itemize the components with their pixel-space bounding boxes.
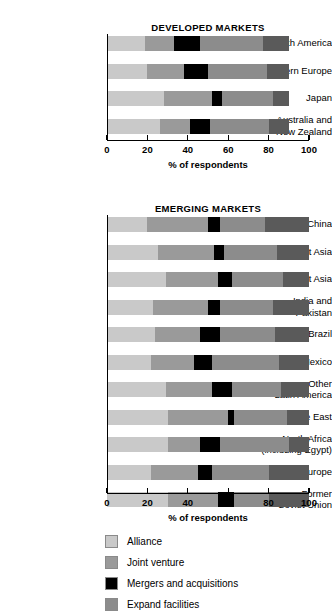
bar-segment-alliance xyxy=(107,36,145,51)
bar-segment-other xyxy=(269,119,289,134)
bar-segment-expand-facilities xyxy=(222,91,273,106)
legend-label: Expand facilities xyxy=(127,599,199,610)
bar-segment-alliance xyxy=(107,355,151,370)
bar-segment-joint-venture xyxy=(147,217,208,232)
stacked-bar xyxy=(107,36,309,51)
x-axis-title: % of respondents xyxy=(107,512,309,523)
bar-segment-alliance xyxy=(107,245,158,260)
legend-swatch-icon xyxy=(105,598,118,611)
stacked-bar xyxy=(107,119,309,134)
bar-segment-mergers-and-acquisitions xyxy=(214,245,224,260)
stacked-bar xyxy=(107,465,309,480)
bar-segment-expand-facilities xyxy=(212,355,279,370)
chart-title: DEVELOPED MARKETS xyxy=(107,22,309,33)
stacked-bar xyxy=(107,64,309,79)
bar-segment-alliance xyxy=(107,327,155,342)
bar-segment-other xyxy=(279,355,309,370)
x-axis-title: % of respondents xyxy=(107,159,309,170)
bar-segment-expand-facilities xyxy=(220,300,273,315)
legend-swatch-icon xyxy=(105,535,118,548)
bar-segment-expand-facilities xyxy=(200,36,263,51)
stacked-bar xyxy=(107,355,309,370)
x-axis-tick xyxy=(268,488,269,493)
legend-item: Expand facilities xyxy=(105,596,199,612)
x-axis-tick-label: 0 xyxy=(92,144,122,155)
bar-segment-other xyxy=(265,217,309,232)
bar-segment-mergers-and-acquisitions xyxy=(208,217,220,232)
stacked-bar xyxy=(107,327,309,342)
bar-segment-expand-facilities xyxy=(220,327,275,342)
bar-segment-mergers-and-acquisitions xyxy=(200,327,220,342)
x-axis-tick-label: 100 xyxy=(294,497,324,508)
bar-segment-mergers-and-acquisitions xyxy=(190,119,210,134)
legend-item: Alliance xyxy=(105,533,162,549)
bar-segment-other xyxy=(283,272,309,287)
legend-label: Mergers and acquisitions xyxy=(127,578,238,589)
bar-segment-expand-facilities xyxy=(232,272,283,287)
bar-segment-joint-venture xyxy=(168,410,229,425)
bar-segment-joint-venture xyxy=(145,36,173,51)
y-axis-line xyxy=(107,215,108,494)
bar-segment-other xyxy=(269,465,309,480)
bar-segment-alliance xyxy=(107,382,166,397)
bar-segment-joint-venture xyxy=(153,300,208,315)
bar-segment-joint-venture xyxy=(151,355,193,370)
bar-segment-expand-facilities xyxy=(220,437,289,452)
legend-label: Alliance xyxy=(127,536,162,547)
x-axis-tick-label: 100 xyxy=(294,144,324,155)
bar-segment-expand-facilities xyxy=(208,64,267,79)
x-axis-tick xyxy=(228,135,229,140)
bar-segment-expand-facilities xyxy=(210,119,269,134)
x-axis-tick-label: 60 xyxy=(213,144,243,155)
x-axis-tick-label: 20 xyxy=(132,497,162,508)
bar-segment-mergers-and-acquisitions xyxy=(208,300,220,315)
bar-segment-joint-venture xyxy=(166,272,219,287)
bar-segment-alliance xyxy=(107,64,147,79)
bar-segment-alliance xyxy=(107,217,147,232)
x-axis-tick xyxy=(106,135,107,140)
stacked-bar xyxy=(107,245,309,260)
x-axis-tick xyxy=(308,135,309,140)
bar-segment-joint-venture xyxy=(147,64,183,79)
bar-segment-joint-venture xyxy=(164,91,212,106)
bar-segment-mergers-and-acquisitions xyxy=(212,91,222,106)
chart-title: EMERGING MARKETS xyxy=(107,203,309,214)
bar-segment-other xyxy=(275,327,309,342)
x-axis-tick xyxy=(187,488,188,493)
bar-segment-joint-venture xyxy=(166,382,212,397)
bar-segment-expand-facilities xyxy=(234,410,287,425)
stacked-bar xyxy=(107,437,309,452)
bar-segment-other xyxy=(273,300,309,315)
bar-segment-alliance xyxy=(107,410,168,425)
bar-segment-alliance xyxy=(107,272,166,287)
legend-label: Joint venture xyxy=(127,557,184,568)
y-axis-line xyxy=(107,34,108,141)
bar-segment-alliance xyxy=(107,437,168,452)
bar-segment-expand-facilities xyxy=(224,245,277,260)
stacked-bar xyxy=(107,217,309,232)
bar-segment-other xyxy=(289,437,309,452)
bar-segment-mergers-and-acquisitions xyxy=(184,64,208,79)
stacked-bar xyxy=(107,382,309,397)
x-axis-line xyxy=(107,140,309,141)
bar-segment-mergers-and-acquisitions xyxy=(212,382,232,397)
bar-segment-other xyxy=(281,382,309,397)
x-axis-tick-label: 40 xyxy=(173,144,203,155)
bar-segment-mergers-and-acquisitions xyxy=(194,355,212,370)
x-axis-tick xyxy=(308,488,309,493)
stacked-bar xyxy=(107,272,309,287)
x-axis-line xyxy=(107,493,309,494)
bar-segment-other xyxy=(263,36,289,51)
x-axis-tick-label: 80 xyxy=(254,144,284,155)
x-axis-tick-label: 20 xyxy=(132,144,162,155)
x-axis-tick xyxy=(187,135,188,140)
x-axis-tick-label: 40 xyxy=(173,497,203,508)
bar-segment-alliance xyxy=(107,465,151,480)
bar-segment-joint-venture xyxy=(168,437,200,452)
stacked-bar xyxy=(107,410,309,425)
bar-segment-joint-venture xyxy=(151,465,197,480)
x-axis-tick xyxy=(268,135,269,140)
x-axis-tick-label: 60 xyxy=(213,497,243,508)
stacked-bar xyxy=(107,91,309,106)
